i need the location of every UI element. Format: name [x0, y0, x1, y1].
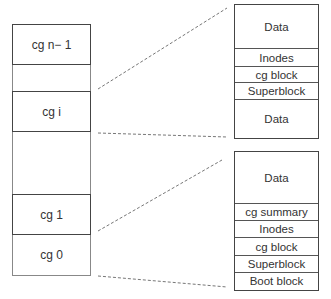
- connector-cg-1-top: [98, 160, 222, 231]
- connector-cg-0-bottom: [98, 276, 227, 287]
- connector-cg-i-bottom: [98, 133, 227, 137]
- connector-cg-i-top: [98, 8, 227, 89]
- connector-lines: [0, 0, 331, 299]
